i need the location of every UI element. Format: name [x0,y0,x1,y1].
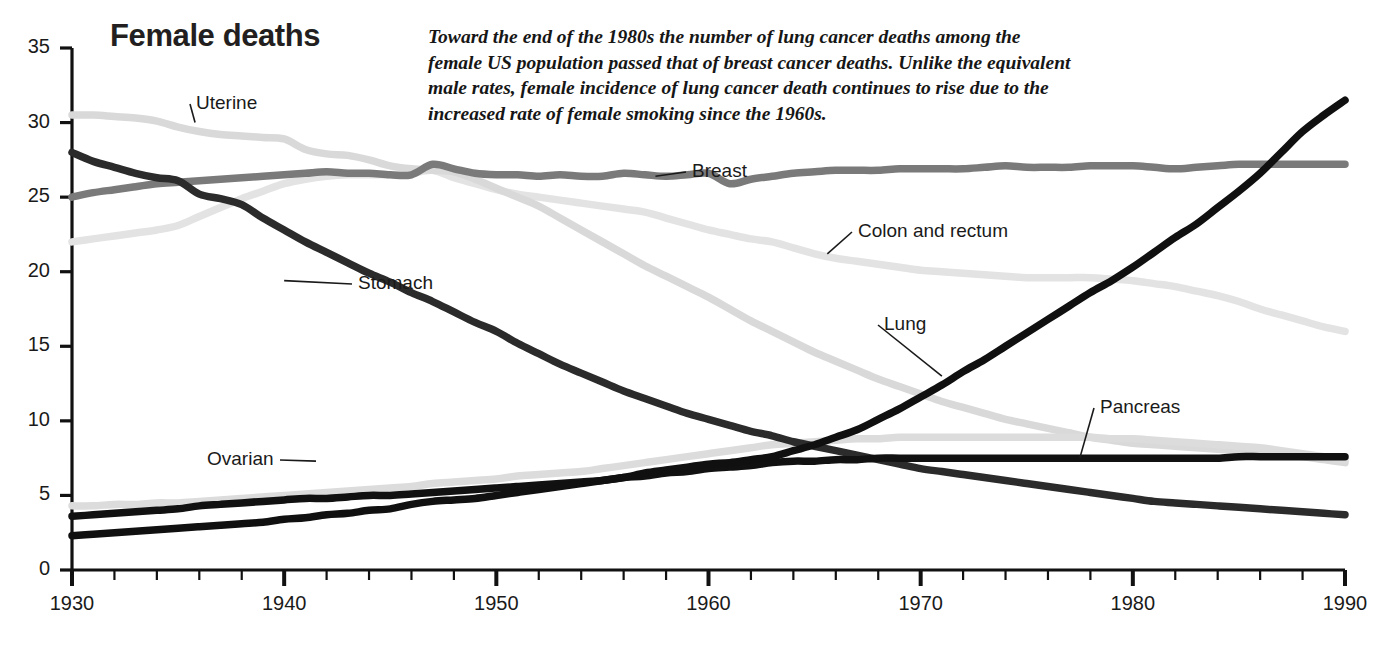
x-tick-label-1930: 1930 [37,592,107,615]
y-tick-label-20: 20 [6,259,50,282]
x-tick-label-1950: 1950 [461,592,531,615]
series-label-ovarian: Ovarian [207,448,274,470]
y-tick-label-30: 30 [6,110,50,133]
y-tick-label-5: 5 [6,482,50,505]
x-tick-label-1940: 1940 [249,592,319,615]
x-tick-label-1970: 1970 [886,592,956,615]
x-tick-label-1990: 1990 [1310,592,1380,615]
y-tick-label-0: 0 [6,557,50,580]
y-tick-label-15: 15 [6,333,50,356]
y-tick-label-35: 35 [6,35,50,58]
series-label-pancreas: Pancreas [1100,396,1180,418]
x-tick-label-1960: 1960 [674,592,744,615]
y-tick-label-10: 10 [6,408,50,431]
x-tick-label-1980: 1980 [1098,592,1168,615]
series-label-colon-and-rectum: Colon and rectum [858,220,1008,242]
series-label-uterine: Uterine [196,92,257,114]
chart-figure: Female deaths Toward the end of the 1980… [0,0,1386,645]
y-tick-label-25: 25 [6,184,50,207]
series-label-lung: Lung [884,313,926,335]
series-label-stomach: Stomach [358,272,433,294]
series-label-breast: Breast [692,160,747,182]
